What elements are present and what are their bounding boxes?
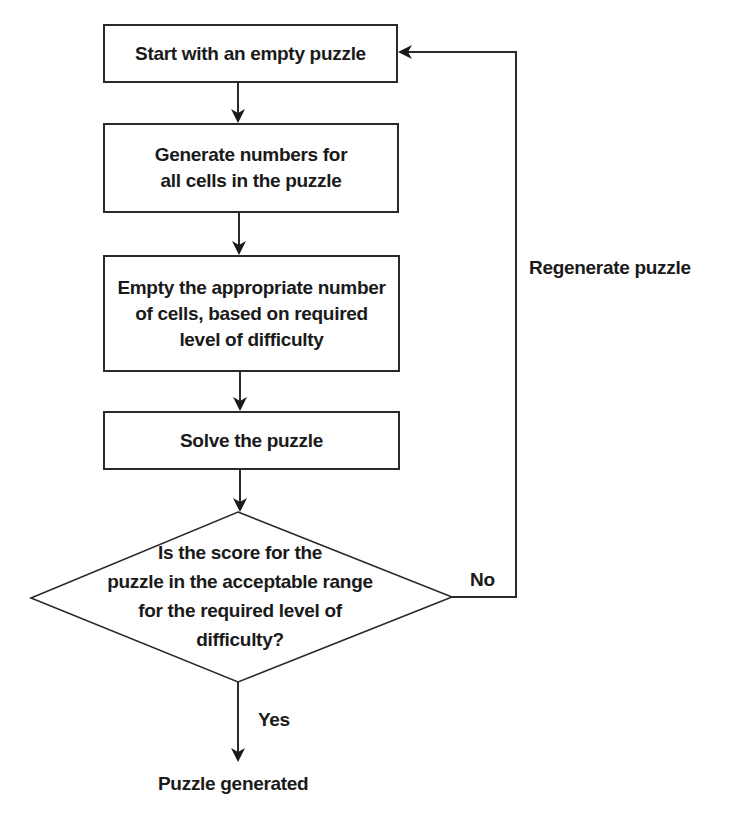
node-solve: Solve the puzzle xyxy=(103,411,400,470)
node-generate-text: Generate numbers for all cells in the pu… xyxy=(155,142,348,194)
node-empty-cells: Empty the appropriate number of cells, b… xyxy=(103,255,400,372)
node-empty-cells-text: Empty the appropriate number of cells, b… xyxy=(117,275,385,353)
flowchart-canvas: Start with an empty puzzle Generate numb… xyxy=(0,0,755,818)
no-label: No xyxy=(470,569,495,591)
node-decision-text: Is the score for the puzzle in the accep… xyxy=(60,538,420,654)
node-end-text: Puzzle generated xyxy=(158,773,308,795)
node-generate: Generate numbers for all cells in the pu… xyxy=(103,123,399,213)
yes-label: Yes xyxy=(258,709,290,731)
node-solve-text: Solve the puzzle xyxy=(180,428,323,454)
arrow-decision-no-loop xyxy=(400,52,516,597)
node-start-text: Start with an empty puzzle xyxy=(135,41,366,67)
regenerate-puzzle-label: Regenerate puzzle xyxy=(529,257,691,279)
node-start: Start with an empty puzzle xyxy=(103,24,398,83)
